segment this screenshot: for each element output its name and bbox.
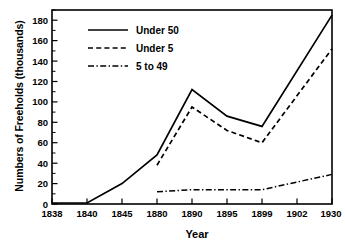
x-tick-label: 1895 (216, 208, 238, 219)
y-tick-label: 60 (37, 137, 48, 148)
y-tick-label: 180 (32, 15, 48, 26)
x-tick-label: 1899 (251, 208, 272, 219)
y-tick-label: 160 (32, 35, 48, 46)
x-tick-label: 1902 (286, 208, 307, 219)
y-tick-label: 20 (37, 178, 48, 189)
y-tick-label: 80 (37, 117, 48, 128)
y-axis-tick-labels: 0 20 40 60 80 100 120 140 160 180 (32, 15, 48, 210)
y-tick-label: 120 (32, 76, 48, 87)
x-tick-label: 1838 (41, 208, 62, 219)
y-tick-label: 140 (32, 56, 48, 67)
x-tick-label: 1930 (320, 208, 341, 219)
legend-label-5-to-49: 5 to 49 (136, 61, 168, 72)
x-axis-tick-labels: 1838 1840 1845 1880 1890 1895 1899 1902 … (41, 208, 341, 219)
x-tick-label: 1845 (111, 208, 133, 219)
line-chart-plot: 0 20 40 60 80 100 120 140 160 180 1838 (0, 0, 345, 247)
legend-label-under-50: Under 50 (136, 25, 179, 36)
x-tick-label: 1840 (76, 208, 97, 219)
y-tick-label: 100 (32, 96, 48, 107)
legend-label-under-5: Under 5 (136, 43, 174, 54)
x-tick-label: 1880 (146, 208, 167, 219)
x-tick-label: 1890 (181, 208, 202, 219)
y-tick-label: 40 (37, 158, 48, 169)
chart-figure: Numbers of Freeholds (thousands) Year (0, 0, 345, 247)
